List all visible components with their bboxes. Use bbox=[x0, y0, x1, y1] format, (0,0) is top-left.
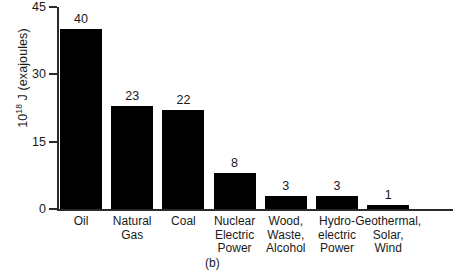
y-axis-tick-label: 15 bbox=[2, 135, 46, 149]
y-axis-tick-label: 0 bbox=[2, 202, 46, 216]
bar bbox=[60, 29, 102, 209]
bar-value-label: 22 bbox=[150, 93, 216, 107]
y-axis-tick-mark bbox=[49, 73, 57, 75]
x-axis-category-label-line: Gas bbox=[96, 229, 168, 243]
bar bbox=[111, 106, 153, 209]
y-axis-tick-label: 45 bbox=[2, 0, 46, 14]
x-axis-category-label: Geothermal,Solar,Wind bbox=[352, 215, 424, 256]
x-axis-category-label-line: Solar, bbox=[352, 229, 424, 243]
y-axis-title-base: 10 bbox=[16, 114, 30, 128]
bar-chart-figure: 1018 J (exajoules) 0153045 4023228331 Oi… bbox=[0, 0, 459, 274]
y-axis-line bbox=[57, 7, 59, 211]
y-axis-tick-label: 30 bbox=[2, 67, 46, 81]
y-axis-title-exponent: 18 bbox=[14, 104, 24, 114]
bar bbox=[265, 196, 307, 209]
bar bbox=[214, 173, 256, 209]
x-axis-category-label-line: Geothermal, bbox=[352, 215, 424, 229]
y-axis-tick-mark bbox=[49, 208, 57, 210]
bar bbox=[367, 205, 409, 209]
x-axis-category-label-line: Wind bbox=[352, 242, 424, 256]
bar-value-label: 8 bbox=[202, 156, 268, 170]
bar bbox=[162, 110, 204, 209]
figure-caption: (b) bbox=[205, 256, 220, 270]
y-axis-tick-mark bbox=[49, 141, 57, 143]
x-axis-line bbox=[57, 209, 453, 211]
bar bbox=[316, 196, 358, 209]
bar-value-label: 40 bbox=[48, 12, 114, 26]
bar-value-label: 1 bbox=[355, 188, 421, 202]
y-axis-tick-mark bbox=[49, 6, 57, 8]
y-axis-title-rest: J (exajoules) bbox=[16, 28, 30, 104]
